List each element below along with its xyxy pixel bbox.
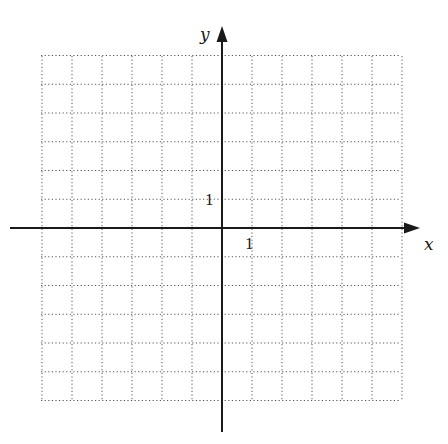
x-axis-arrow-icon: [404, 223, 420, 234]
x-axis-label: x: [424, 234, 434, 254]
y-axis-label: y: [199, 24, 210, 44]
coordinate-plane: x y 1 1: [0, 0, 448, 444]
y-tick-label-1: 1: [205, 190, 214, 209]
x-tick-label-1: 1: [245, 234, 254, 253]
y-axis-arrow-icon: [217, 26, 228, 42]
